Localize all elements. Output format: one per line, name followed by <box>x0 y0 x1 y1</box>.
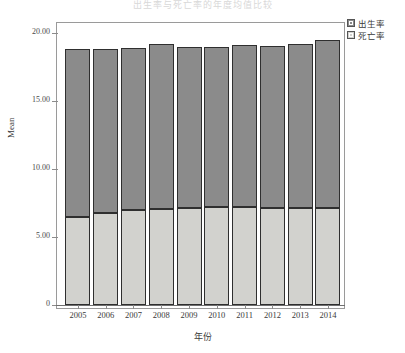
bar-segment-death-rate <box>177 208 202 305</box>
bar-segment-birth-rate <box>177 47 202 208</box>
bar-segment-death-rate <box>288 208 313 305</box>
legend-label: 出生率 <box>358 17 385 29</box>
y-tick-label: 0 <box>46 299 50 308</box>
bar-segment-birth-rate <box>121 48 146 211</box>
y-tick-label: 15.00 <box>32 95 50 104</box>
bar-segment-death-rate <box>315 208 340 305</box>
bar-segment-death-rate <box>260 208 285 305</box>
bar-segment-birth-rate <box>93 49 118 213</box>
bar-segment-birth-rate <box>65 49 90 217</box>
x-tick-mark <box>106 305 107 309</box>
clipped-chart-title: 出生率与死亡率的年度均值比较 <box>0 0 405 9</box>
x-tick-mark <box>217 305 218 309</box>
stacked-bar <box>288 23 313 305</box>
legend-item-death-rate[interactable]: 死亡率 <box>347 29 385 40</box>
x-tick-mark <box>161 305 162 309</box>
bar-segment-birth-rate <box>315 40 340 208</box>
bar-segment-birth-rate <box>149 44 174 209</box>
x-tick-mark <box>245 305 246 309</box>
legend-label: 死亡率 <box>358 29 385 41</box>
stacked-bar <box>315 23 340 305</box>
x-tick-label-2014: 2014 <box>308 310 348 320</box>
stacked-bar <box>93 23 118 305</box>
legend-swatch-inner <box>349 21 353 25</box>
y-tick: 20.00 <box>0 33 62 34</box>
stacked-bar <box>121 23 146 305</box>
y-tick-label: 5.00 <box>36 231 50 240</box>
y-tick-label: 10.00 <box>32 163 50 172</box>
stacked-bar <box>260 23 285 305</box>
x-tick-mark <box>272 305 273 309</box>
bar-segment-death-rate <box>93 213 118 305</box>
figure-canvas: 出生率与死亡率的年度均值比较 Mean 05.0010.0015.0020.00… <box>0 0 405 353</box>
x-axis-line <box>56 305 345 306</box>
y-tick: 0 <box>0 305 62 306</box>
bar-segment-birth-rate <box>288 44 313 207</box>
legend-item-birth-rate[interactable]: 出生率 <box>347 17 385 28</box>
bar-segment-death-rate <box>149 209 174 305</box>
x-axis-title: 年份 <box>0 330 405 343</box>
legend: 出生率死亡率 <box>347 17 385 41</box>
bar-segment-birth-rate <box>232 45 257 207</box>
bar-segment-death-rate <box>65 217 90 305</box>
x-tick-mark <box>300 305 301 309</box>
stacked-bar <box>232 23 257 305</box>
x-tick-mark <box>328 305 329 309</box>
x-tick-mark <box>78 305 79 309</box>
bar-segment-death-rate <box>121 210 146 305</box>
bar-group <box>57 23 344 305</box>
x-tick-mark <box>133 305 134 309</box>
y-tick: 5.00 <box>0 237 62 238</box>
x-tick-mark <box>189 305 190 309</box>
bar-segment-birth-rate <box>260 46 285 208</box>
legend-swatch-icon <box>347 19 355 27</box>
stacked-bar <box>65 23 90 305</box>
y-tick: 15.00 <box>0 101 62 102</box>
y-axis-title: Mean <box>6 118 16 139</box>
stacked-bar <box>149 23 174 305</box>
legend-swatch-icon <box>347 31 355 39</box>
bar-segment-birth-rate <box>204 47 229 207</box>
y-tick: 10.00 <box>0 169 62 170</box>
bar-segment-death-rate <box>232 207 257 305</box>
y-tick-label: 20.00 <box>32 27 50 36</box>
stacked-bar <box>177 23 202 305</box>
legend-swatch-inner <box>349 33 353 37</box>
bar-segment-death-rate <box>204 207 229 305</box>
stacked-bar <box>204 23 229 305</box>
